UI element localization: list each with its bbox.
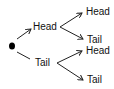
tree-diagram: Head Tail Head Tail Head Tail xyxy=(0,0,114,89)
edge-root-tail xyxy=(17,52,30,59)
node-head-tail: Tail xyxy=(87,34,102,45)
edge-tail-tail xyxy=(57,63,83,80)
node-head: Head xyxy=(33,21,57,32)
edge-head-tail xyxy=(60,27,83,39)
node-tail: Tail xyxy=(35,57,50,68)
edge-head-head xyxy=(60,13,82,27)
edge-root-head xyxy=(17,29,31,39)
node-tail-tail: Tail xyxy=(87,74,102,85)
edge-tail-head xyxy=(57,51,82,63)
node-tail-head: Head xyxy=(86,45,110,56)
root-node xyxy=(9,43,15,50)
node-head-head: Head xyxy=(86,6,110,17)
